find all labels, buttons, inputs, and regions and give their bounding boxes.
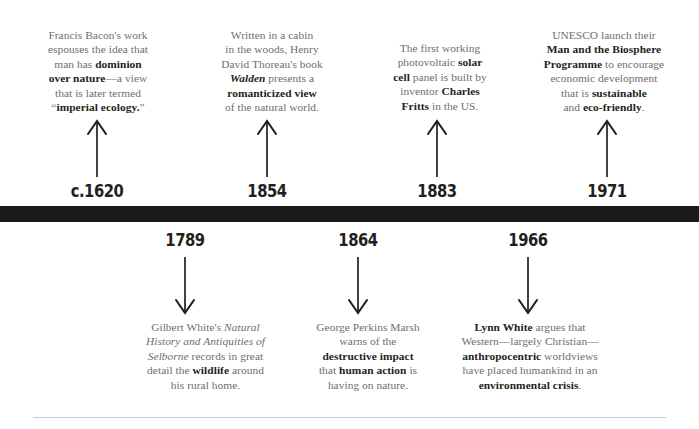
up-arrow-icon-1971: [595, 118, 619, 178]
event-description-1966: Lynn White argues thatWestern—largely Ch…: [435, 320, 625, 392]
year-label-1854: 1854: [227, 180, 307, 201]
year-label-1864: 1864: [318, 229, 398, 250]
down-arrow-icon-1966: [516, 256, 540, 316]
down-arrow-icon-1789: [173, 256, 197, 316]
year-label-1883: 1883: [397, 180, 477, 201]
year-label-1966: 1966: [488, 229, 568, 250]
event-description-1864: George Perkins Marshwarns of thedestruct…: [288, 320, 448, 392]
year-label-1620: c.1620: [57, 180, 137, 201]
bottom-divider: [33, 417, 666, 418]
timeline-infographic: Francis Bacon's workespouses the idea th…: [0, 0, 699, 429]
up-arrow-icon-1854: [255, 118, 279, 178]
up-arrow-icon-1883: [425, 118, 449, 178]
event-description-1789: Gilbert White's NaturalHistory and Antiq…: [108, 320, 303, 392]
event-description-1620: Francis Bacon's workespouses the idea th…: [13, 28, 183, 114]
down-arrow-icon-1864: [346, 256, 370, 316]
year-label-1971: 1971: [567, 180, 647, 201]
event-description-1883: The first workingphotovoltaic solarcell …: [365, 41, 515, 113]
up-arrow-icon-1620: [85, 118, 109, 178]
event-description-1854: Written in a cabinin the woods, HenryDav…: [192, 28, 352, 114]
year-label-1789: 1789: [145, 229, 225, 250]
timeline-bar: [0, 206, 699, 222]
event-description-1971: UNESCO launch theirMan and the Biosphere…: [518, 28, 690, 114]
